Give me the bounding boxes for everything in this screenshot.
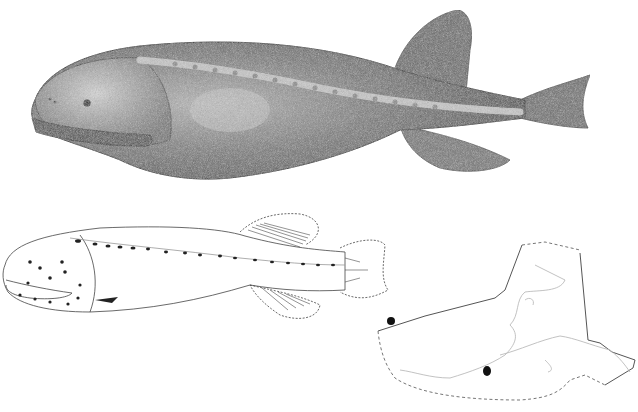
- outline-fish-mouth: [6, 280, 72, 299]
- fish-eye: [84, 100, 91, 107]
- occurrence-point: [483, 366, 491, 376]
- range-map: [378, 242, 635, 400]
- outline-fish-drawing: [3, 214, 388, 319]
- caudal-fin: [520, 75, 590, 128]
- map-boundary-dashed: [378, 242, 605, 400]
- outline-fish-body: [3, 227, 345, 312]
- outline-pelvic-fin: [250, 285, 320, 318]
- shaded-fish-drawing: [32, 10, 590, 179]
- outline-caudal-fin: [340, 240, 388, 298]
- occurrence-point: [387, 317, 395, 325]
- anal-fin: [400, 125, 510, 171]
- illustration-plate: [0, 0, 638, 412]
- map-boundary-solid: [378, 245, 635, 385]
- outline-lateral-line-pores: [18, 239, 335, 305]
- alaska-coastline: [400, 265, 630, 378]
